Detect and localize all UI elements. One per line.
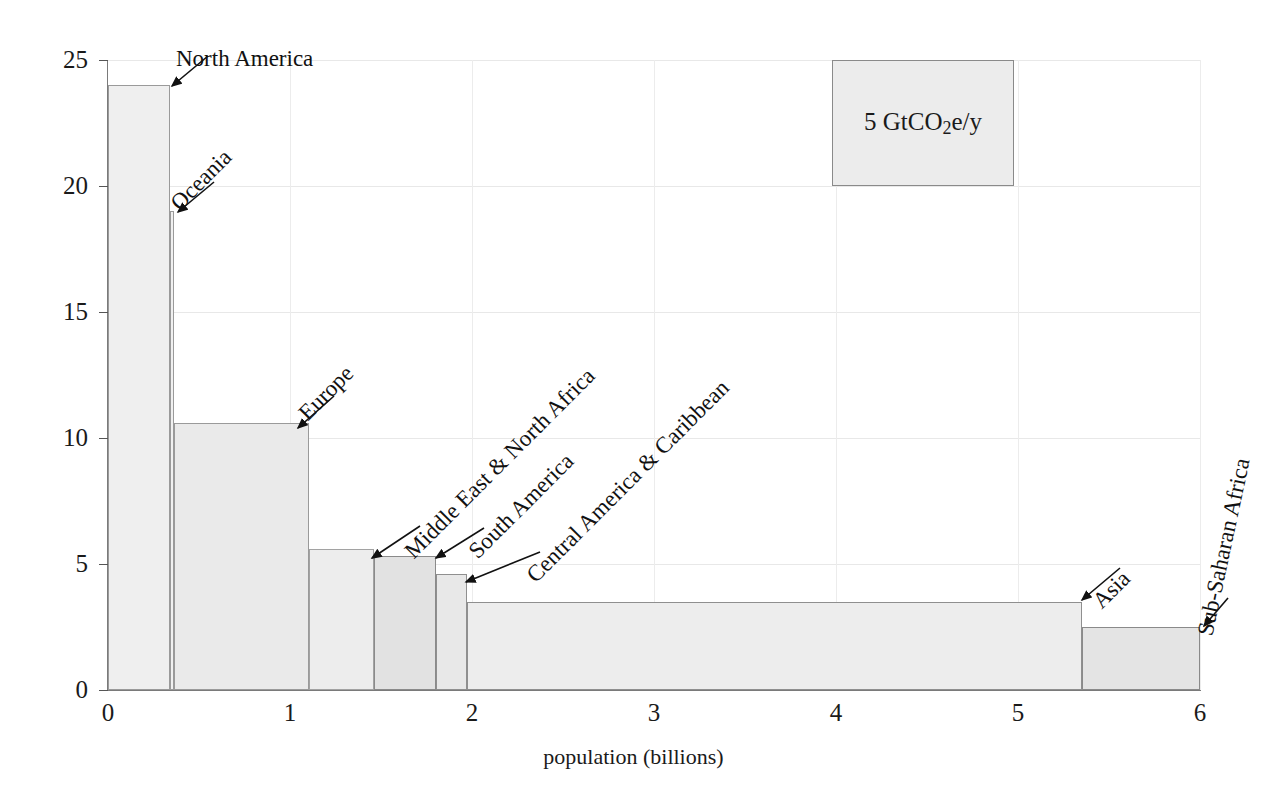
y-tick-label: 20 <box>28 173 88 198</box>
gridline-vertical <box>654 60 655 690</box>
legend-key-label: 5 GtCO2e/y <box>864 108 982 139</box>
x-tick-label: 1 <box>260 700 320 725</box>
y-tick-label: 5 <box>28 551 88 576</box>
bar-europe-narrow <box>309 549 374 690</box>
x-tick-label: 4 <box>806 700 866 725</box>
y-tick-label: 15 <box>28 299 88 324</box>
x-tick-label: 2 <box>442 700 502 725</box>
x-tick-label: 6 <box>1170 700 1230 725</box>
x-tick-label: 5 <box>988 700 1048 725</box>
bar-europe-wide <box>174 423 309 690</box>
y-tick-label: 25 <box>28 47 88 72</box>
annotation-sub-saharan-africa: Sub-Saharan Africa <box>1193 456 1256 638</box>
bar-south-america <box>436 574 467 690</box>
gridline-vertical <box>1018 60 1019 690</box>
bar-north-america <box>108 85 170 690</box>
y-axis-title: Greenhouse gas pollution (tons CO2e/y pe… <box>0 0 1 300</box>
bar-sub-saharan-africa <box>1082 627 1200 690</box>
plot-area: 5 GtCO2e/y <box>108 60 1200 690</box>
y-tick-label: 10 <box>28 425 88 450</box>
bar-middle-east-north-africa <box>374 556 436 690</box>
gridline-vertical <box>472 60 473 690</box>
annotation-north-america: North America <box>176 46 313 72</box>
x-axis-title: population (billions) <box>0 744 1267 770</box>
y-tick-label: 0 <box>28 677 88 702</box>
x-tick-label: 3 <box>624 700 684 725</box>
chart-root: Greenhouse gas pollution (tons CO2e/y pe… <box>0 0 1267 787</box>
x-axis-line <box>107 690 1201 691</box>
bar-central-america-caribbean <box>467 602 1082 690</box>
x-tick-label: 0 <box>78 700 138 725</box>
legend-key-box: 5 GtCO2e/y <box>832 60 1014 186</box>
